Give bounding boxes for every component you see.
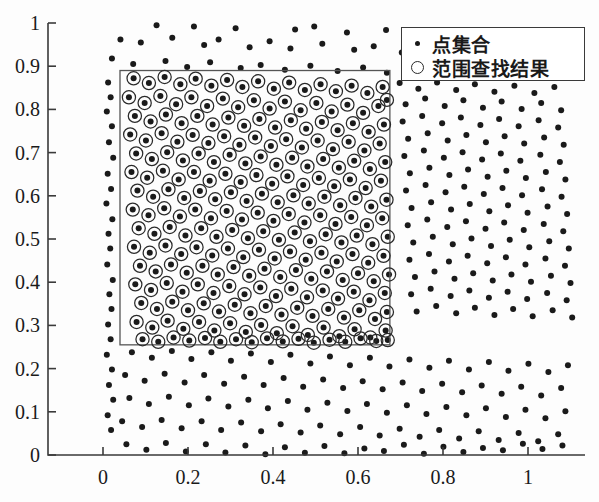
y-tick-label: 0.8	[0, 99, 40, 119]
filled-dot-icon	[402, 41, 432, 46]
legend: 点集合 范围查找结果	[401, 27, 585, 81]
y-tick-label: 0.7	[0, 143, 40, 163]
x-tick-label: 1	[523, 467, 533, 487]
y-tick-label: 0.9	[0, 56, 40, 76]
x-tick-label: 0	[98, 467, 108, 487]
open-circle-icon	[402, 61, 432, 74]
legend-entry-range-result: 范围查找结果	[402, 54, 549, 80]
y-tick-label: 0.1	[0, 402, 40, 422]
y-tick-label: 0.6	[0, 186, 40, 206]
legend-entry-point-set: 点集合	[402, 30, 491, 56]
y-tick-label: 0	[0, 445, 40, 465]
y-tick-label: 0.2	[0, 359, 40, 379]
y-tick-label: 0.4	[0, 272, 40, 292]
y-tick-label: 0.5	[0, 229, 40, 249]
y-tick-label: 0.3	[0, 315, 40, 335]
y-tick-label: 1	[0, 13, 40, 33]
legend-label-point-set: 点集合	[432, 30, 491, 57]
x-tick-label: 0.8	[431, 467, 456, 487]
x-tick-label: 0.4	[261, 467, 286, 487]
scatter-plot-figure: 00.10.20.30.40.50.60.70.80.91 00.20.40.6…	[0, 0, 599, 502]
legend-label-range-result: 范围查找结果	[432, 54, 549, 81]
x-tick-label: 0.6	[346, 467, 371, 487]
x-tick-label: 0.2	[176, 467, 201, 487]
